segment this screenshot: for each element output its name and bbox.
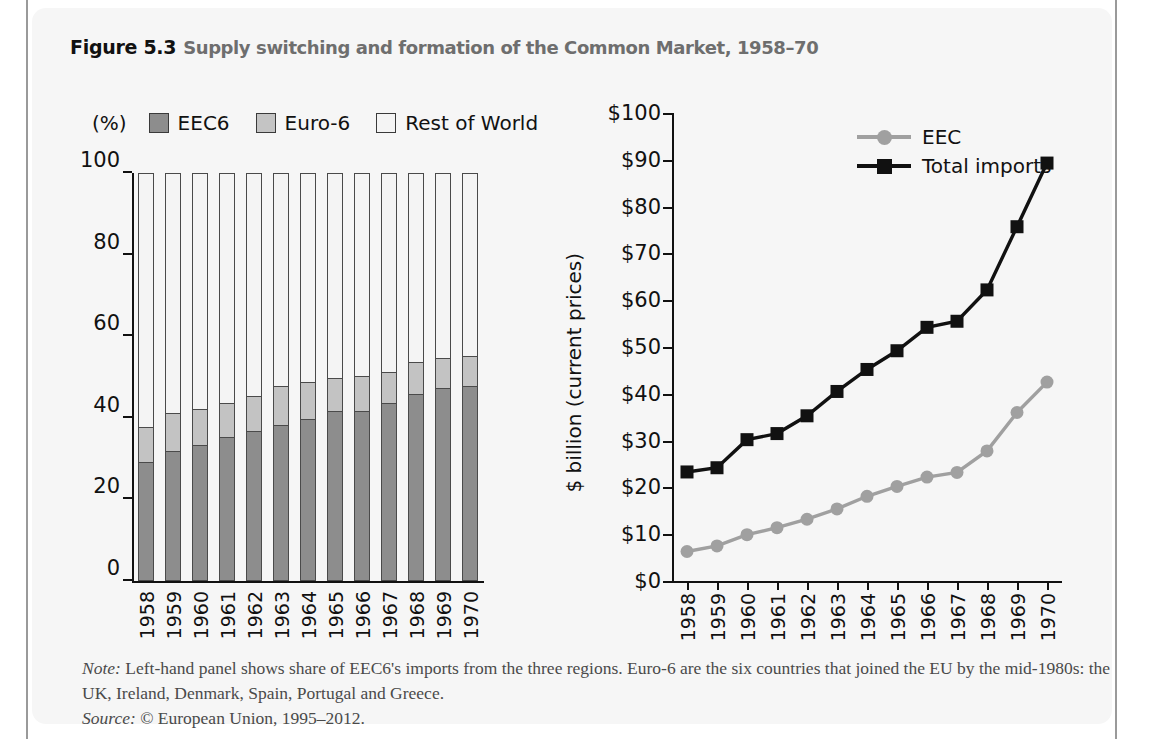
- data-point-marker[interactable]: [981, 444, 994, 457]
- bar-segment-eec6: [463, 386, 477, 580]
- right-chart-legend: EEC Total imports: [857, 125, 1052, 183]
- data-point-marker[interactable]: [891, 480, 904, 493]
- right-x-tick: [987, 581, 989, 590]
- bar-segment-euro6: [328, 378, 342, 411]
- right-x-tick-label: 1960: [737, 593, 759, 641]
- left-x-tick-label: 1966: [352, 591, 374, 639]
- right-x-tick: [1017, 581, 1019, 590]
- series-line-eec: [687, 382, 1047, 551]
- page-gutter-left: [26, 0, 28, 739]
- right-x-tick-label: 1961: [767, 593, 789, 641]
- bar-segment-euro6: [247, 396, 261, 431]
- figure-title: Figure 5.3Supply switching and formation…: [70, 36, 818, 58]
- legend-item-rest-of-world[interactable]: Rest of World: [376, 111, 538, 135]
- data-point-marker[interactable]: [801, 409, 814, 422]
- bar-segment-euro6: [382, 372, 396, 403]
- data-point-marker[interactable]: [1011, 220, 1024, 233]
- right-x-tick: [777, 581, 779, 590]
- data-point-marker[interactable]: [711, 461, 724, 474]
- right-x-tick-label: 1963: [827, 593, 849, 641]
- bar-stack[interactable]: [138, 173, 154, 581]
- figure-number: Figure 5.3: [70, 36, 176, 58]
- data-point-marker[interactable]: [801, 513, 814, 526]
- data-point-marker[interactable]: [831, 502, 844, 515]
- data-point-marker[interactable]: [861, 363, 874, 376]
- bar-segment-eec6: [193, 445, 207, 580]
- bar-stack[interactable]: [165, 173, 181, 581]
- right-x-tick: [1047, 581, 1049, 590]
- data-point-marker[interactable]: [921, 471, 934, 484]
- data-point-marker[interactable]: [921, 321, 934, 334]
- bar-stack[interactable]: [192, 173, 208, 581]
- left-y-axis-line: [132, 173, 134, 581]
- source-label: Source:: [82, 708, 136, 728]
- data-point-marker[interactable]: [681, 465, 694, 478]
- right-y-tick: [663, 300, 672, 302]
- legend-label-eec: EEC: [922, 125, 961, 149]
- right-x-tick-label: 1970: [1037, 593, 1059, 641]
- left-x-tick-label: 1970: [460, 591, 482, 639]
- bar-stack[interactable]: [246, 173, 262, 581]
- right-y-tick-label: $10: [621, 522, 661, 546]
- data-point-marker[interactable]: [741, 528, 754, 541]
- bar-stack[interactable]: [327, 173, 343, 581]
- right-x-tick-label: 1969: [1007, 593, 1029, 641]
- bar-stack[interactable]: [408, 173, 424, 581]
- bar-segment-euro6: [409, 362, 423, 395]
- bar-segment-eec6: [301, 419, 315, 580]
- legend-label-euro6: Euro-6: [285, 111, 351, 135]
- bar-stack[interactable]: [462, 173, 478, 581]
- bar-stack[interactable]: [273, 173, 289, 581]
- bar-segment-eec6: [166, 451, 180, 580]
- legend-item-eec[interactable]: EEC: [857, 125, 1052, 149]
- legend-label-eec6: EEC6: [178, 111, 230, 135]
- right-y-tick: [663, 581, 672, 583]
- series-line-total-imports: [687, 163, 1047, 472]
- bar-stack[interactable]: [381, 173, 397, 581]
- data-point-marker[interactable]: [891, 344, 904, 357]
- data-point-marker[interactable]: [681, 545, 694, 558]
- data-point-marker[interactable]: [711, 539, 724, 552]
- data-point-marker[interactable]: [951, 315, 964, 328]
- right-x-tick-label: 1965: [887, 593, 909, 641]
- data-point-marker[interactable]: [771, 521, 784, 534]
- legend-item-total-imports[interactable]: Total imports: [857, 154, 1052, 178]
- right-y-tick: [663, 347, 672, 349]
- right-y-tick-label: $0: [634, 569, 661, 593]
- data-point-marker[interactable]: [1011, 406, 1024, 419]
- bar-stack[interactable]: [354, 173, 370, 581]
- left-y-tick-label: 40: [93, 392, 120, 416]
- data-point-marker[interactable]: [861, 490, 874, 503]
- right-y-tick-label: $90: [621, 147, 661, 171]
- bar-segment-euro6: [463, 356, 477, 387]
- bar-segment-euro6: [139, 427, 153, 462]
- right-y-tick-label: $30: [621, 428, 661, 452]
- bar-segment-eec6: [274, 425, 288, 580]
- data-point-marker[interactable]: [981, 283, 994, 296]
- left-y-tick-label: 80: [93, 229, 120, 253]
- data-point-marker[interactable]: [951, 466, 964, 479]
- data-point-marker[interactable]: [831, 385, 844, 398]
- legend-label-rest-of-world: Rest of World: [405, 111, 538, 135]
- bar-stack[interactable]: [435, 173, 451, 581]
- figure-panel: Figure 5.3Supply switching and formation…: [32, 8, 1112, 724]
- data-point-marker[interactable]: [771, 427, 784, 440]
- legend-item-euro6[interactable]: Euro-6: [256, 111, 351, 135]
- data-point-marker[interactable]: [1041, 376, 1054, 389]
- data-point-marker[interactable]: [741, 433, 754, 446]
- right-x-tick: [957, 581, 959, 590]
- bar-segment-eec6: [247, 431, 261, 580]
- right-chart-plot-area: $0$10$20$30$40$50$60$70$80$90$100 EEC: [672, 113, 1062, 581]
- right-x-tick: [807, 581, 809, 590]
- left-x-tick-label: 1967: [379, 591, 401, 639]
- legend-item-eec6[interactable]: EEC6: [149, 111, 230, 135]
- left-chart-legend: (%) EEC6 Euro-6 Rest of World: [92, 111, 564, 135]
- right-x-tick-label: 1966: [917, 593, 939, 641]
- right-y-tick: [663, 207, 672, 209]
- bar-stack[interactable]: [219, 173, 235, 581]
- bar-segment-euro6: [355, 376, 369, 411]
- left-x-tick-label: 1958: [136, 591, 158, 639]
- bar-stack[interactable]: [300, 173, 316, 581]
- bar-segment-euro6: [193, 409, 207, 446]
- source-text: © European Union, 1995–2012.: [136, 708, 365, 728]
